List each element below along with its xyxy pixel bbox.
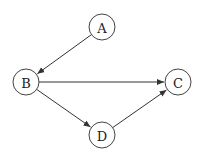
edges-layer <box>37 35 167 128</box>
node-c: C <box>165 69 191 95</box>
node-b: B <box>13 69 39 95</box>
edge-d-to-c <box>113 90 167 128</box>
edge-b-to-d <box>37 89 91 127</box>
edge-a-to-b <box>37 35 91 74</box>
node-label: B <box>21 76 31 91</box>
node-label: D <box>97 129 107 144</box>
node-label: A <box>96 21 107 36</box>
node-label: C <box>173 76 183 91</box>
nodes-layer: ABCD <box>13 14 191 148</box>
node-d: D <box>89 122 115 148</box>
node-a: A <box>89 14 115 40</box>
directed-graph: ABCD <box>0 0 207 162</box>
